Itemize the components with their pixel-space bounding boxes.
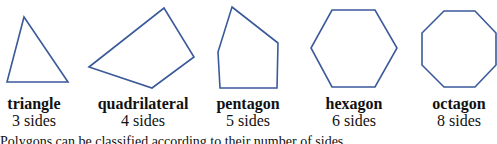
shape-sides: 8 sides (404, 112, 497, 129)
triangle-shape (7, 17, 68, 82)
shape-name: quadrilateral (88, 95, 198, 112)
shape-sides: 5 sides (193, 112, 303, 129)
shape-name: hexagon (299, 95, 409, 112)
quadrilateral-label: quadrilateral 4 sides (88, 95, 198, 129)
caption: Polygons can be classified according to … (0, 134, 347, 144)
hexagon-shape (311, 10, 397, 87)
shape-sides: 4 sides (88, 112, 198, 129)
shape-name: octagon (404, 95, 497, 112)
polygon-diagram (0, 0, 497, 100)
quadrilateral-shape (89, 8, 194, 88)
pentagon-shape (218, 7, 278, 88)
pentagon-label: pentagon 5 sides (193, 95, 303, 129)
triangle-label: triangle 3 sides (0, 95, 89, 129)
shape-name: pentagon (193, 95, 303, 112)
octagon-shape (422, 11, 496, 87)
octagon-label: octagon 8 sides (404, 95, 497, 129)
hexagon-label: hexagon 6 sides (299, 95, 409, 129)
shape-name: triangle (0, 95, 89, 112)
shape-sides: 3 sides (0, 112, 89, 129)
shape-sides: 6 sides (299, 112, 409, 129)
